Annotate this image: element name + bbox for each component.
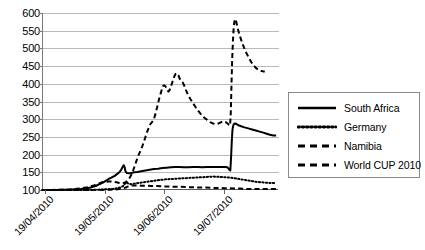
solid-line-swatch bbox=[297, 102, 337, 114]
y-tick-label: 550 bbox=[22, 25, 40, 36]
legend-label: Namibia bbox=[344, 141, 382, 152]
chart-legend: South AfricaGermanyNamibiaWorld CUP 2010 bbox=[288, 92, 420, 178]
y-tick-label: 400 bbox=[22, 78, 40, 89]
y-tick-label: 500 bbox=[22, 43, 40, 54]
x-tick-label: 19/05/2010 bbox=[72, 194, 116, 238]
y-tick-label: 100 bbox=[22, 185, 40, 196]
y-tick-label: 300 bbox=[22, 114, 40, 125]
y-tick-label: 600 bbox=[22, 8, 40, 19]
y-tick-label: 450 bbox=[22, 61, 40, 72]
chart-figure: 600550500450400350300250200150100 19/04/… bbox=[0, 0, 425, 250]
legend-item-world-cup-2010[interactable]: World CUP 2010 bbox=[297, 157, 421, 173]
legend-label: South Africa bbox=[344, 103, 399, 114]
legend-item-south-africa[interactable]: South Africa bbox=[297, 100, 399, 116]
dotted-line-swatch bbox=[297, 121, 337, 133]
series-line-world-cup-2010 bbox=[42, 185, 276, 190]
legend-item-namibia[interactable]: Namibia bbox=[297, 138, 382, 154]
legend-item-germany[interactable]: Germany bbox=[297, 119, 386, 135]
y-tick-label: 250 bbox=[22, 131, 40, 142]
dashed-line-swatch bbox=[297, 159, 337, 171]
y-tick-label: 350 bbox=[22, 96, 40, 107]
y-tick-label: 150 bbox=[22, 167, 40, 178]
legend-label: World CUP 2010 bbox=[344, 160, 421, 171]
legend-label: Germany bbox=[344, 122, 386, 133]
series-layer bbox=[42, 13, 278, 190]
dashed-line-swatch bbox=[297, 140, 337, 152]
y-tick-label: 200 bbox=[22, 149, 40, 160]
x-tick-label: 19/07/2010 bbox=[191, 194, 235, 238]
x-tick-label: 19/06/2010 bbox=[131, 194, 175, 238]
